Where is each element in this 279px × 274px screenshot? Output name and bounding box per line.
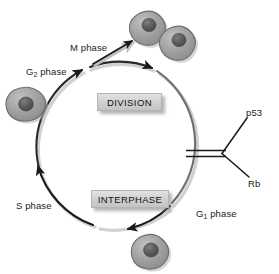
p53-label: p53 — [246, 107, 262, 118]
interphase-label-box: INTERPHASE — [91, 190, 169, 208]
g1-phase-cell — [131, 234, 171, 271]
g1-phase-label: G1 phase — [196, 208, 237, 220]
m-phase-label-base: M — [70, 42, 78, 53]
rb-label: Rb — [248, 178, 260, 189]
s-phase-label-tail: phase — [22, 200, 51, 211]
g2-phase-label-base: G — [26, 66, 34, 77]
s-phase-arc — [38, 166, 93, 225]
s-phase-label: S phase — [16, 200, 52, 211]
cell-cycle-figure: DIVISION INTERPHASE M phase G2 phase S p… — [0, 0, 279, 274]
g2-phase-cell — [6, 87, 48, 123]
g2-phase-label: G2 phase — [26, 66, 67, 78]
cell-cycle-svg — [0, 0, 279, 274]
g2-phase-label-tail: phase — [38, 66, 67, 77]
p53-connector — [222, 118, 247, 154]
rb-connector — [222, 154, 249, 178]
g1-phase-label-base: G — [196, 208, 204, 219]
m-phase-label-tail: phase — [78, 42, 107, 53]
daughter-cell-2 — [159, 26, 197, 63]
m-phase-label: M phase — [70, 42, 107, 53]
division-label-box: DIVISION — [97, 93, 162, 111]
g1-phase-label-tail: phase — [208, 208, 237, 219]
